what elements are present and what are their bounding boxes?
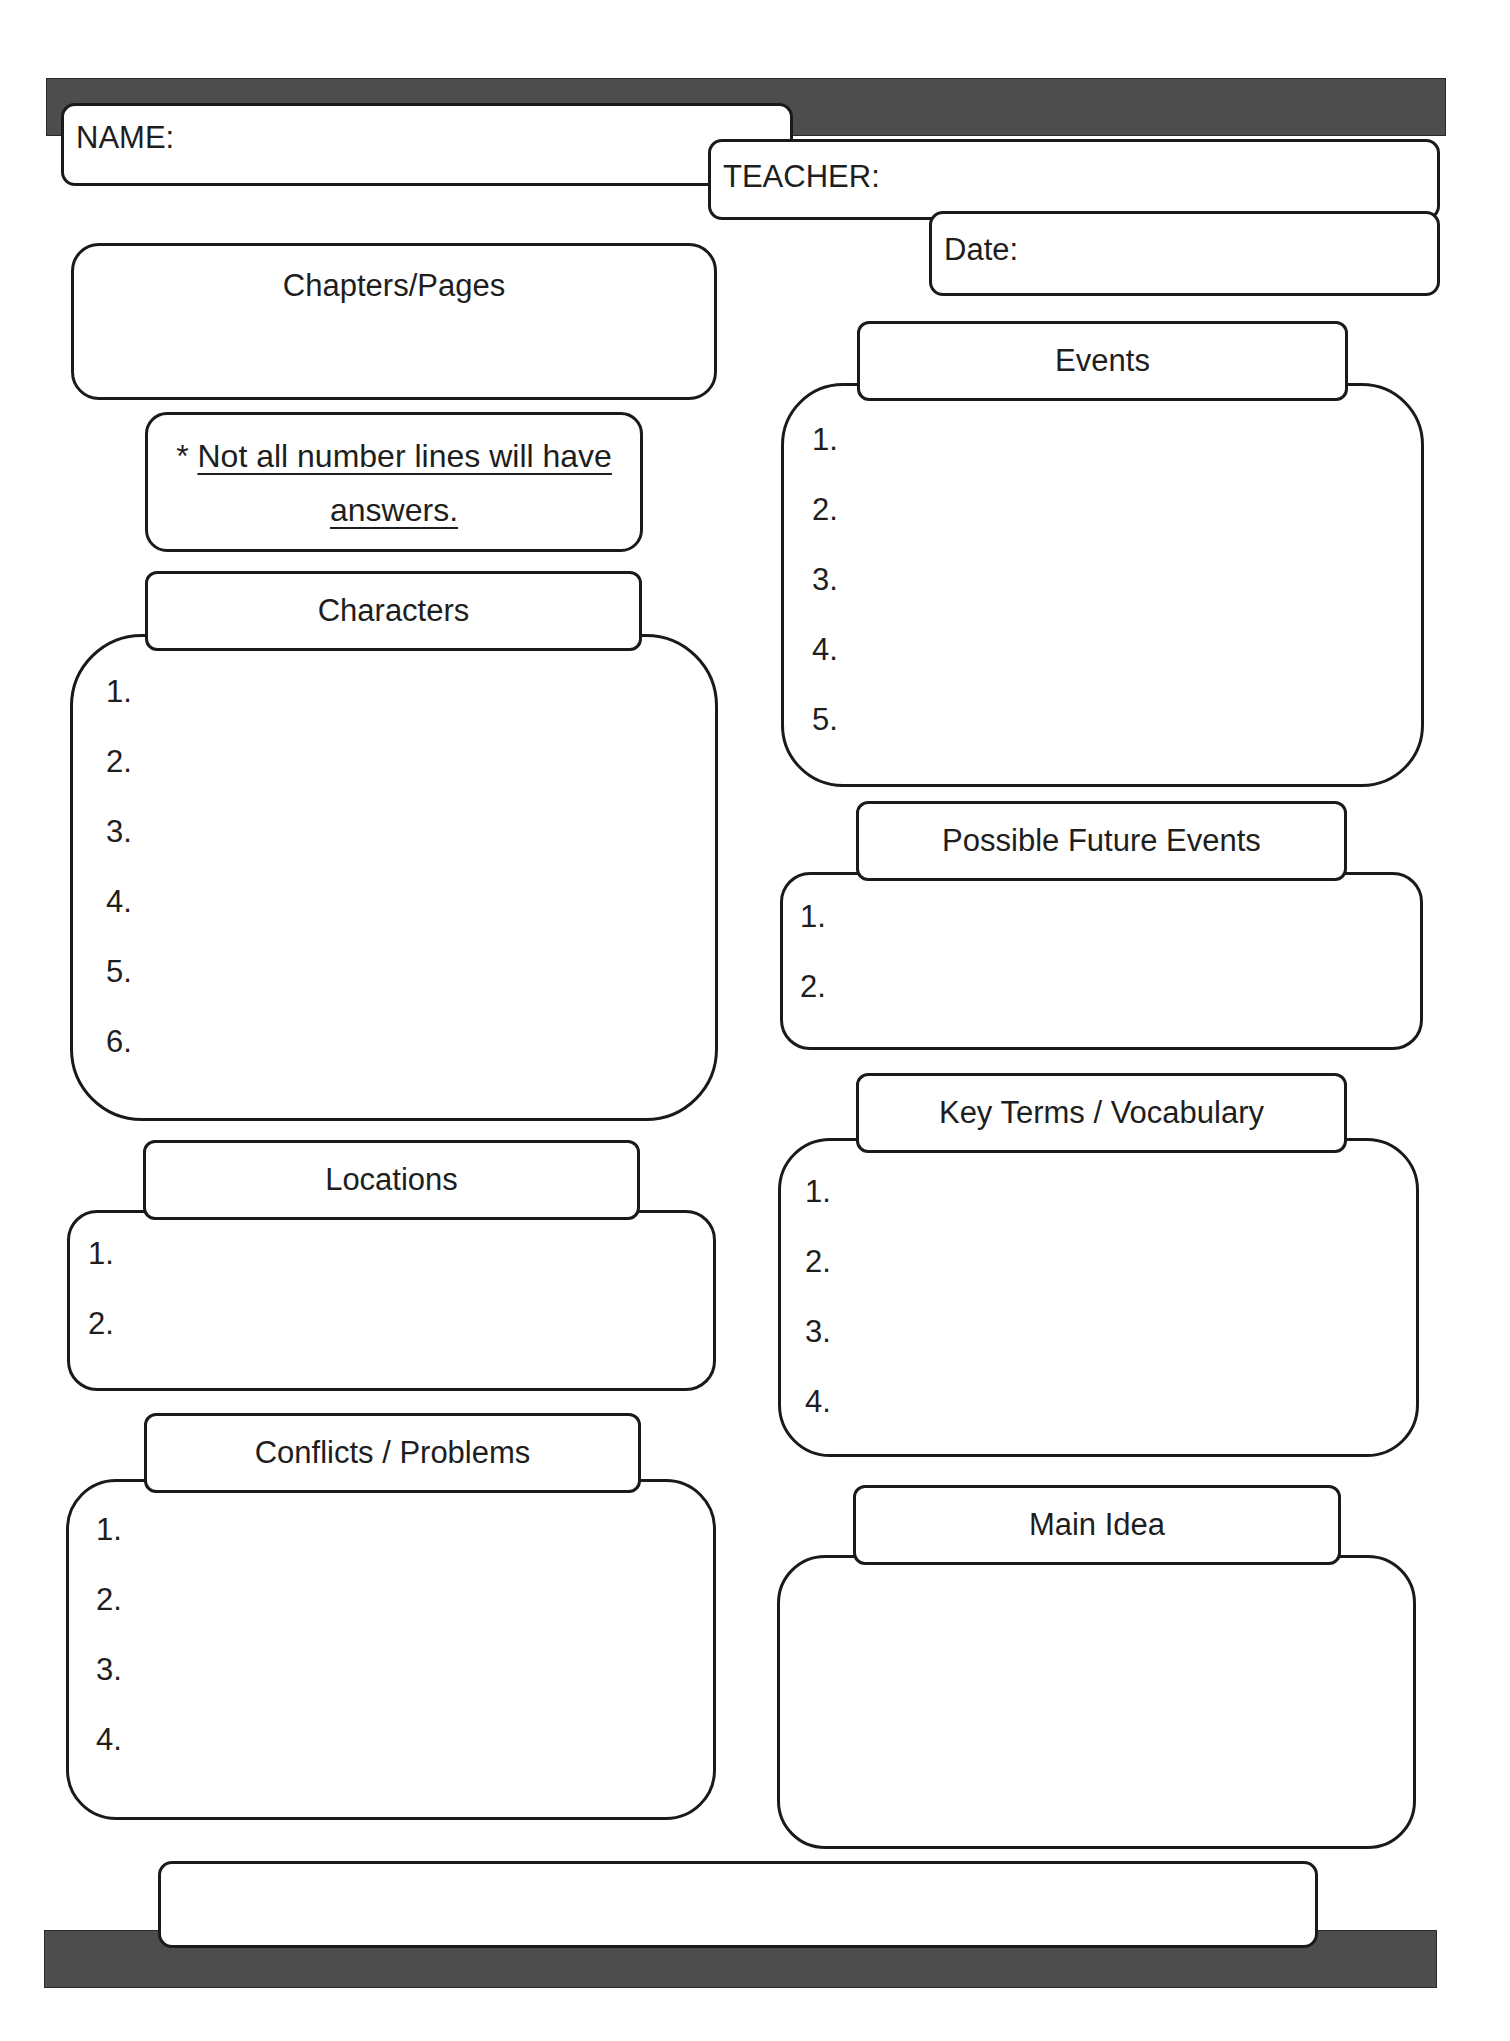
- characters-item: 5.: [106, 954, 132, 990]
- conflicts-item: 3.: [96, 1652, 122, 1688]
- characters-title: Characters: [145, 571, 642, 651]
- locations-item: 2.: [88, 1306, 114, 1342]
- future-events-item: 1.: [800, 899, 826, 935]
- main-idea-panel[interactable]: [777, 1555, 1416, 1849]
- conflicts-item: 1.: [96, 1512, 122, 1548]
- key-terms-item: 4.: [805, 1384, 831, 1420]
- events-item: 3.: [812, 562, 838, 598]
- key-terms-item: 2.: [805, 1244, 831, 1280]
- note-asterisk: *: [176, 438, 188, 474]
- conflicts-title: Conflicts / Problems: [144, 1413, 641, 1493]
- characters-panel[interactable]: 1. 2. 3. 4. 5. 6.: [70, 634, 718, 1121]
- characters-item: 6.: [106, 1024, 132, 1060]
- key-terms-item: 3.: [805, 1314, 831, 1350]
- locations-title: Locations: [143, 1140, 640, 1220]
- conflicts-panel[interactable]: 1. 2. 3. 4.: [66, 1479, 716, 1820]
- characters-item: 4.: [106, 884, 132, 920]
- events-item: 2.: [812, 492, 838, 528]
- locations-item: 1.: [88, 1236, 114, 1272]
- note-line1: Not all number lines will have: [197, 438, 611, 474]
- characters-item: 2.: [106, 744, 132, 780]
- events-item: 5.: [812, 702, 838, 738]
- events-panel[interactable]: 1. 2. 3. 4. 5.: [781, 383, 1424, 787]
- future-events-item: 2.: [800, 969, 826, 1005]
- characters-item: 3.: [106, 814, 132, 850]
- main-idea-title: Main Idea: [853, 1485, 1341, 1565]
- chapters-pages-title: Chapters/Pages: [74, 268, 714, 304]
- locations-panel[interactable]: 1. 2.: [67, 1210, 716, 1391]
- note-box: * Not all number lines will have answers…: [145, 412, 643, 552]
- note-line2: answers.: [330, 492, 458, 528]
- future-events-panel[interactable]: 1. 2.: [780, 872, 1423, 1050]
- conflicts-item: 4.: [96, 1722, 122, 1758]
- chapters-pages-box[interactable]: Chapters/Pages: [71, 243, 717, 400]
- conflicts-item: 2.: [96, 1582, 122, 1618]
- date-field[interactable]: Date:: [929, 211, 1440, 296]
- characters-item: 1.: [106, 674, 132, 710]
- events-item: 1.: [812, 422, 838, 458]
- events-title: Events: [857, 321, 1348, 401]
- key-terms-panel[interactable]: 1. 2. 3. 4.: [778, 1138, 1419, 1457]
- teacher-label: TEACHER:: [723, 159, 880, 195]
- future-events-title: Possible Future Events: [856, 801, 1347, 881]
- footer-box[interactable]: [158, 1861, 1318, 1948]
- key-terms-item: 1.: [805, 1174, 831, 1210]
- events-item: 4.: [812, 632, 838, 668]
- name-field[interactable]: NAME:: [61, 103, 793, 186]
- date-label: Date:: [944, 232, 1018, 268]
- teacher-field[interactable]: TEACHER:: [708, 139, 1440, 220]
- key-terms-title: Key Terms / Vocabulary: [856, 1073, 1347, 1153]
- name-label: NAME:: [76, 120, 174, 156]
